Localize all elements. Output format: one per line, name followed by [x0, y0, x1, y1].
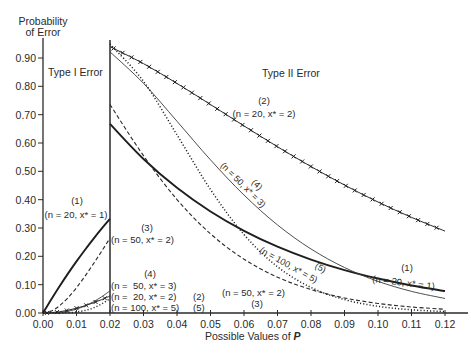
x-marker — [121, 51, 125, 55]
annotation-line: (n = 20, x* = 2) — [111, 291, 176, 302]
x-marker — [103, 296, 107, 300]
x-marker — [283, 149, 287, 153]
annotation-number: (5) — [313, 261, 327, 275]
annotation-left-3: (3) (n = 50, x* = 2) — [111, 222, 174, 245]
annotation-right-1: (1) (n = 20, x* = 1) — [372, 262, 436, 292]
x-tick-label: 0.02 — [100, 318, 121, 330]
x-marker — [190, 91, 194, 95]
y-axis-title-line2: of Error — [25, 26, 61, 38]
annotation-top-2: (2) (n = 20, x* = 2) — [233, 95, 296, 119]
y-tick-labels: 0.00 0.10 0.20 0.30 0.40 0.50 0.60 0.70 … — [16, 52, 37, 319]
x-tick-label: 0.00 — [33, 318, 54, 330]
error-probability-chart: Probability of Error 0.00 0.10 0.20 0.30… — [0, 0, 471, 355]
x-marker — [215, 107, 219, 111]
annotation-text: (n = 20, x* = 1) — [45, 209, 108, 220]
x-marker — [435, 226, 439, 230]
x-axis-title-variable: P — [294, 330, 302, 342]
x-marker — [138, 60, 142, 64]
annotation-number: (3) — [251, 298, 263, 309]
x-marker — [129, 55, 133, 59]
x-marker — [249, 128, 253, 132]
x-tick-label: 0.10 — [368, 318, 389, 330]
x-marker — [207, 101, 211, 105]
x-marker — [173, 80, 177, 84]
y-tick-label: 0.70 — [16, 109, 37, 121]
annotation-number: (3) — [141, 222, 153, 233]
type-ii-error-label: Type II Error — [262, 67, 320, 79]
type-i-error-label: Type I Error — [48, 66, 103, 78]
annotation-number: (4) — [144, 268, 156, 279]
x-marker — [371, 197, 375, 201]
x-tick-label: 0.07 — [267, 318, 288, 330]
x-marker — [300, 159, 304, 163]
x-tick-labels: 0.00 0.01 0.02 0.03 0.04 0.05 0.06 0.07 … — [33, 318, 456, 330]
x-marker — [198, 96, 202, 100]
x-marker — [274, 144, 278, 148]
y-tick-label: 0.40 — [16, 194, 37, 206]
annotation-suffix: (5) — [193, 302, 205, 313]
curve-5-type-ii — [110, 44, 445, 311]
x-tick-label: 0.06 — [234, 318, 255, 330]
x-marker — [181, 85, 185, 89]
annotation-left-1: (1) (n = 20, x* = 1) — [45, 195, 108, 220]
x-marker — [326, 174, 330, 178]
curve-4-type-i — [43, 291, 110, 313]
y-tick-label: 0.30 — [16, 222, 37, 234]
annotation-number: (2) — [258, 95, 270, 106]
x-marker — [266, 139, 270, 143]
x-tick-label: 0.01 — [66, 318, 87, 330]
annotation-text: (n = 50, x* = 2) — [222, 287, 285, 298]
y-tick-label: 0.20 — [16, 250, 37, 262]
x-marker — [425, 222, 429, 226]
x-tick-label: 0.12 — [435, 318, 456, 330]
x-marker — [344, 184, 348, 188]
x-axis-title: Possible Values of P — [205, 330, 302, 342]
curve-1-type-ii — [110, 124, 445, 291]
x-marker — [240, 123, 244, 127]
annotation-diag-4: (n = 50, x* = 3) (4) — [219, 153, 275, 209]
annotation-line: (n = 100, x* = 5) — [111, 302, 179, 313]
x-marker — [398, 210, 402, 214]
x-marker — [380, 202, 384, 206]
annotation-text: (n = 20, x* = 2) — [233, 108, 296, 119]
annotation-suffix: (2) — [193, 291, 205, 302]
y-axis-title: Probability of Error — [18, 15, 68, 38]
x-tick-label: 0.04 — [167, 318, 188, 330]
x-marker — [292, 154, 296, 158]
x-marker — [164, 75, 168, 79]
y-tick-label: 0.60 — [16, 137, 37, 149]
annotation-diag-5: (n = 100, x* = 5) (5) — [258, 234, 328, 287]
annotation-number: (1) — [401, 262, 413, 273]
x-marker — [362, 193, 366, 197]
x-marker — [389, 206, 393, 210]
x-tick-label: 0.03 — [133, 318, 154, 330]
curve-1-type-i — [43, 219, 110, 313]
x-marker — [416, 218, 420, 222]
annotation-number: (1) — [71, 195, 83, 206]
x-marker — [156, 70, 160, 74]
x-tick-label: 0.11 — [402, 318, 422, 330]
x-marker — [353, 188, 357, 192]
y-tick-label: 0.80 — [16, 80, 37, 92]
x-marker — [147, 65, 151, 69]
x-marker — [224, 112, 228, 116]
annotation-text: (n = 50, x* = 2) — [111, 234, 174, 245]
x-marker — [257, 134, 261, 138]
annotation-left-4: (4) (n = 50, x* = 3) (n = 20, x* = 2) (2… — [111, 268, 205, 313]
y-tick-label: 0.10 — [16, 279, 37, 291]
x-axis-title-text: Possible Values of — [205, 330, 294, 342]
annotation-line: (n = 50, x* = 3) — [111, 280, 176, 291]
y-tick-label: 0.50 — [16, 165, 37, 177]
x-tick-label: 0.08 — [301, 318, 322, 330]
x-marker — [407, 214, 411, 218]
annotation-bottom-3: (n = 50, x* = 2) (3) — [222, 287, 285, 309]
x-tick-label: 0.05 — [200, 318, 221, 330]
x-marker — [309, 164, 313, 168]
curve-3-type-i — [43, 238, 110, 313]
x-marker — [318, 169, 322, 173]
y-tick-label: 0.90 — [16, 52, 37, 64]
y-ticks — [38, 58, 43, 313]
x-tick-label: 0.09 — [334, 318, 355, 330]
x-marker — [335, 179, 339, 183]
